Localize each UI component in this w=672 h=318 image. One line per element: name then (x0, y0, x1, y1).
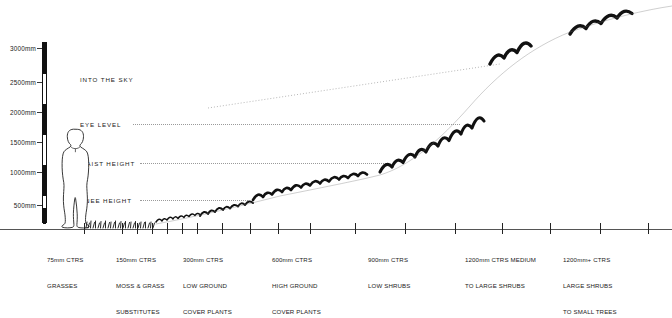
x-label-desc-1: MOSS & GRASS (116, 282, 165, 291)
x-tick-mark (197, 223, 198, 234)
x-tick-mark (137, 223, 138, 234)
x-label-desc-1: LOW GROUND (183, 282, 232, 291)
x-tick-mark (455, 223, 456, 234)
x-label-desc-1: LOW SHRUBS (368, 282, 410, 291)
grasses-zone (86, 221, 155, 228)
x-axis-label-group: 150mm CTRS MOSS & GRASS SUBSTITUTES (116, 239, 165, 318)
x-label-spacing: 75mm CTRS (47, 256, 84, 265)
medium-large-shrubs-zone (380, 118, 484, 172)
x-tick-mark (182, 223, 183, 234)
x-tick-mark (250, 223, 251, 234)
x-label-spacing: 900mm CTRS (368, 256, 410, 265)
x-axis-label-group: 300mm CTRS LOW GROUND COVER PLANTS (183, 239, 232, 318)
x-label-desc-1: HIGH GROUND (272, 282, 321, 291)
x-tick-mark (278, 223, 279, 234)
x-label-spacing: 150mm CTRS (116, 256, 165, 265)
x-tick-mark (122, 223, 123, 234)
x-tick-mark (355, 223, 356, 234)
x-tick-mark (502, 223, 503, 234)
x-label-spacing: 600mm CTRS (272, 256, 321, 265)
x-tick-mark (550, 223, 551, 234)
low-ground-cover-zone (156, 213, 200, 222)
x-tick-mark (152, 223, 153, 234)
x-label-desc-1: LARGE SHRUBS (563, 282, 617, 291)
x-label-desc-2: COVER PLANTS (183, 308, 232, 317)
x-tick-mark (84, 223, 85, 234)
plant-height-profile-curve (30, 0, 672, 232)
x-tick-mark (222, 223, 223, 234)
x-axis-label-group: 900mm CTRS LOW SHRUBS (368, 239, 410, 318)
x-tick-mark (310, 223, 311, 234)
ground-baseline (0, 229, 672, 230)
x-label-spacing: 300mm CTRS (183, 256, 232, 265)
x-label-spacing: 1200mm CTRS MEDIUM (465, 256, 536, 265)
x-axis-label-group: 600mm CTRS HIGH GROUND COVER PLANTS (272, 239, 321, 318)
x-label-desc-2: SUBSTITUTES (116, 308, 165, 317)
x-label-desc-2: COVER PLANTS (272, 308, 321, 317)
x-axis-label-group: 75mm CTRS GRASSES (47, 239, 84, 318)
x-tick-mark (405, 223, 406, 234)
x-axis-label-group: 1200mm CTRS MEDIUM TO LARGE SHRUBS (465, 239, 536, 318)
x-tick-mark (167, 223, 168, 234)
x-tick-mark (600, 223, 601, 234)
x-label-desc-1: GRASSES (47, 282, 84, 291)
x-label-spacing: 1200mm+ CTRS (563, 256, 617, 265)
x-label-desc-2: TO SMALL TREES (563, 308, 617, 317)
x-label-desc-1: TO LARGE SHRUBS (465, 282, 536, 291)
x-axis-label-group: 1200mm+ CTRS LARGE SHRUBS TO SMALL TREES (563, 239, 617, 318)
x-tick-mark (648, 223, 649, 234)
low-shrubs-zone (253, 173, 367, 200)
